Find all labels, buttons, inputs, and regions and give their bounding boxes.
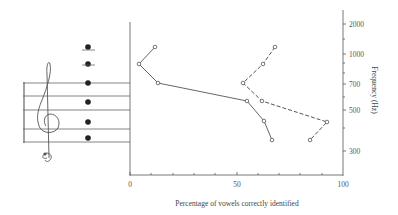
note-icon <box>85 61 91 67</box>
data-point <box>137 62 141 66</box>
note-icon <box>85 80 91 86</box>
x-axis-title: Percentage of vowels correctly identifie… <box>175 199 299 208</box>
music-staff <box>23 82 130 143</box>
y-axis-title: Frequency (Hz) <box>370 66 379 114</box>
data-point <box>270 138 274 142</box>
y-tick-700: 700 <box>349 80 361 89</box>
data-point <box>261 62 265 66</box>
note-icon <box>85 135 91 141</box>
axes <box>130 10 346 176</box>
note-icon <box>85 44 91 50</box>
data-point <box>153 45 157 49</box>
treble-clef-icon <box>38 62 59 161</box>
data-point <box>245 99 249 103</box>
series-dashed <box>241 45 329 142</box>
data-point <box>308 138 312 142</box>
note-icon <box>85 99 91 105</box>
note-heads <box>82 44 95 141</box>
data-point <box>273 45 277 49</box>
chart-canvas: 0 50 100 2000 1000 700 500 300 Percentag… <box>0 0 398 215</box>
x-tick-100: 100 <box>337 180 349 189</box>
x-tick-0: 0 <box>128 180 132 189</box>
x-tick-50: 50 <box>233 180 241 189</box>
y-tick-1000: 1000 <box>349 50 364 59</box>
data-point <box>262 119 266 123</box>
series-solid <box>137 45 274 142</box>
data-point <box>260 99 264 103</box>
data-point <box>156 81 160 85</box>
data-point <box>325 120 329 124</box>
y-tick-300: 300 <box>349 147 361 156</box>
data-point <box>241 81 245 85</box>
y-tick-500: 500 <box>349 106 361 115</box>
y-tick-2000: 2000 <box>349 20 364 29</box>
note-icon <box>85 119 91 125</box>
